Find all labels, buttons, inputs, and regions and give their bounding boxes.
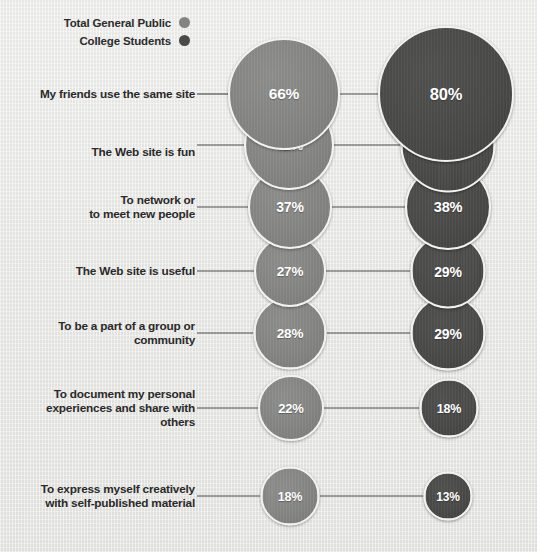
bubble-general-public[interactable]: 66% bbox=[228, 38, 340, 150]
bubble-chart: Total General Public College Students My… bbox=[0, 0, 537, 552]
category-label: To express myself creatively with self-p… bbox=[0, 482, 195, 510]
bubble-general-public[interactable]: 18% bbox=[261, 467, 320, 526]
bubble-value: 28% bbox=[277, 326, 303, 341]
bubble-value: 37% bbox=[276, 199, 303, 215]
bubble-value: 38% bbox=[434, 199, 462, 215]
legend-label: College Students bbox=[79, 35, 171, 47]
bubble-value: 29% bbox=[434, 263, 461, 279]
chart-legend: Total General Public College Students bbox=[40, 14, 190, 50]
bubble-college-students[interactable]: 13% bbox=[424, 472, 473, 521]
category-label: To document my personal experiences and … bbox=[0, 387, 195, 429]
bubble-college-students[interactable]: 80% bbox=[378, 26, 514, 162]
legend-dot-icon bbox=[179, 35, 190, 46]
bubble-value: 66% bbox=[269, 85, 299, 103]
category-label: My friends use the same site bbox=[0, 87, 195, 101]
bubble-general-public[interactable]: 22% bbox=[258, 375, 324, 441]
legend-dot-icon bbox=[179, 17, 190, 28]
bubble-value: 29% bbox=[434, 325, 461, 341]
bubble-value: 18% bbox=[437, 401, 461, 415]
bubble-value: 13% bbox=[436, 489, 459, 503]
legend-label: Total General Public bbox=[64, 17, 171, 29]
category-label: The Web site is useful bbox=[0, 264, 195, 278]
category-label: To network or to meet new people bbox=[0, 193, 195, 221]
bubble-value: 22% bbox=[278, 401, 303, 416]
bubble-college-students[interactable]: 18% bbox=[420, 379, 479, 438]
bubble-value: 27% bbox=[277, 264, 303, 279]
category-label: To be a part of a group or community bbox=[0, 319, 195, 347]
legend-item-total-general-public: Total General Public bbox=[40, 14, 190, 31]
bubble-value: 18% bbox=[278, 489, 302, 503]
bubble-general-public[interactable]: 28% bbox=[254, 297, 327, 370]
category-label: The Web site is fun bbox=[0, 145, 195, 159]
legend-item-college-students: College Students bbox=[40, 32, 190, 49]
bubble-value: 80% bbox=[430, 85, 462, 104]
